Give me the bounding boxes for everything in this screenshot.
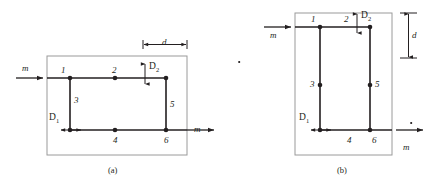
panel-b-caption: (b) <box>337 166 347 175</box>
panel-a-caption: (a) <box>108 166 117 175</box>
panel-b-label-node-3: 3 <box>310 80 315 89</box>
panel-a-inlet-mdot-label: m <box>22 64 434 73</box>
panel-a-label-node-1: 1 <box>61 66 66 75</box>
panel-a-node-2 <box>113 76 118 81</box>
panel-a-label-node-2: 2 <box>112 66 117 75</box>
panel-b-node-3 <box>318 83 323 88</box>
panel-b-label-diameter-D2: D2 <box>361 11 371 22</box>
panel-a-inlet-mdot-overdot <box>238 61 240 63</box>
panel-a-label-node-4: 4 <box>113 136 118 145</box>
panel-a-node-5-top <box>164 76 169 81</box>
panel-b-label-node-2: 2 <box>344 15 349 24</box>
panel-b-inlet-mdot-label: m <box>270 31 434 40</box>
panel-a-node-4 <box>113 128 118 133</box>
figure-pipe-network-diagram <box>0 0 434 183</box>
panel-b-label-dimension-d: d <box>412 31 417 40</box>
panel-b-label-node-5: 5 <box>375 80 380 89</box>
panel-b-outlet-mdot-label: m <box>403 143 434 152</box>
panel-a-label-diameter-D2: D2 <box>149 62 159 73</box>
panel-a-node-6 <box>164 128 169 133</box>
panel-a-node-1 <box>68 76 73 81</box>
panel-b-node-5 <box>368 83 373 88</box>
panel-b-label-node-4: 4 <box>347 136 352 145</box>
panel-b-node-1 <box>318 25 323 30</box>
panel-a-label-node-5: 5 <box>170 100 175 109</box>
panel-a-label-node-3: 3 <box>74 96 79 105</box>
panel-a-label-diameter-D1: D1 <box>49 113 59 124</box>
panel-a-outlet-mdot-overdot <box>410 122 412 124</box>
panel-b-node-5-top <box>368 25 373 30</box>
panel-a-outlet-mdot-label: m <box>194 125 434 134</box>
panel-b-label-node-1: 1 <box>311 15 316 24</box>
panel-a-label-node-6: 6 <box>164 136 169 145</box>
panel-a-label-dimension-d: d <box>162 38 167 47</box>
panel-b-label-diameter-D1: D1 <box>299 113 309 124</box>
panel-b-label-node-6: 6 <box>372 136 377 145</box>
